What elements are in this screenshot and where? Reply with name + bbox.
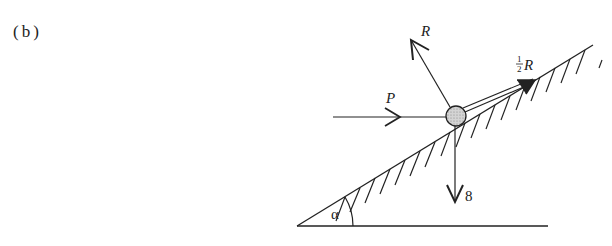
force-r-label: R — [420, 23, 430, 39]
incline-surface — [297, 45, 593, 226]
angle-arc — [345, 197, 353, 226]
friction-r-label: R — [523, 57, 533, 73]
force-r-arrowhead — [411, 40, 429, 60]
friction-fraction-numerator: 1 — [517, 54, 522, 64]
inclined-plane-diagram: α P R 1 2 R 8 — [0, 0, 612, 246]
force-friction — [463, 79, 535, 112]
force-r-line — [411, 40, 450, 107]
force-p-label: P — [385, 90, 395, 106]
angle-alpha-label: α — [331, 206, 339, 222]
particle — [446, 106, 466, 126]
friction-fraction-denominator: 2 — [517, 64, 522, 74]
force-weight-label: 8 — [465, 188, 473, 204]
